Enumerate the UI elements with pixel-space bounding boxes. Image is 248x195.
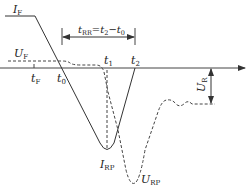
label-IF: IF [12, 3, 22, 17]
svg-text:UR: UR [195, 77, 209, 92]
label-trr-formula: tRR=t2−t0 [78, 24, 125, 37]
label-URP: URP [141, 173, 161, 187]
reverse-recovery-diagram: IF UF tF t0 t1 t2 IRP URP tRR=t2−t0 UR [0, 0, 248, 195]
label-tF: tF [31, 72, 40, 86]
label-t2: t2 [131, 54, 140, 68]
label-IRP: IRP [99, 158, 115, 172]
current-curve [5, 16, 135, 150]
label-UR: UR [195, 77, 209, 92]
label-UF: UF [14, 47, 28, 61]
label-t1: t1 [104, 54, 113, 68]
